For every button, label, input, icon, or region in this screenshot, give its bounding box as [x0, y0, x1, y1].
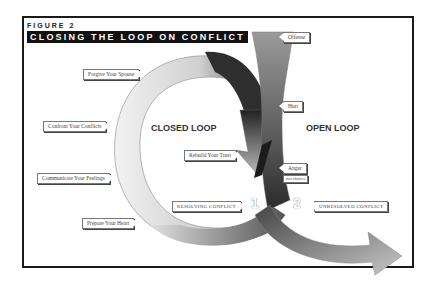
- resolving-conflict-tag: RESOLVING CONFLICT: [172, 201, 241, 212]
- prepare-your-heart-tag: Prepare Your Heart: [82, 218, 134, 229]
- forgive-your-spouse-tag: Forgive Your Spouse: [83, 69, 139, 80]
- path-number-2: 2: [293, 195, 301, 211]
- closed-loop-heading: CLOSED LOOP: [151, 123, 217, 133]
- communicate-your-feelings-tag: Communicate Your Feelings: [37, 173, 110, 184]
- open-loop-heading: OPEN LOOP: [306, 123, 360, 133]
- confront-your-conflicts-tag: Confront Your Conflicts: [43, 121, 106, 132]
- offense-tag: Offense: [283, 32, 310, 43]
- two-choices-tag: two choices: [283, 175, 308, 183]
- anger-tag: Anger: [283, 163, 307, 174]
- loop-diagram: [0, 0, 437, 283]
- unresolved-conflict-tag: UNRESOLVED CONFLICT: [314, 201, 388, 212]
- rebuild-your-trust-tag: Rebuild Your Trust: [184, 150, 236, 161]
- path-number-1: 1: [251, 195, 259, 211]
- hurt-tag: Hurt: [283, 101, 303, 112]
